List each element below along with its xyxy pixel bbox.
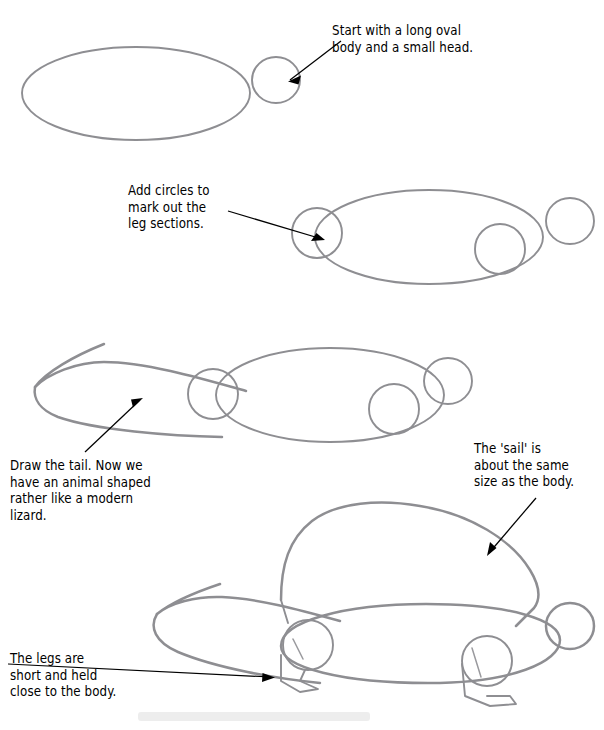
sail-arch [281,503,538,626]
rear-leg-inner-line [472,648,481,677]
tail-lower-curve [35,387,222,437]
tutorial-illustration [0,0,604,730]
caption-sail: The 'sail' is about the same size as the… [474,441,574,491]
rear-leg-circle [475,224,525,274]
head-circle [546,198,594,244]
head-circle [424,358,472,404]
step-2-figure [228,190,594,284]
step-3-figure [35,344,472,452]
arrow-to-leg-circle [228,211,325,241]
front-leg-inner-line [293,639,303,659]
caption-legs: The legs are short and held close to the… [10,651,116,701]
body-oval [315,190,543,284]
caption-step-1: Start with a long oval body and a small … [332,23,473,56]
front-leg-circle [283,620,333,670]
rear-leg-circle [369,384,419,434]
tail-upper-curve [35,344,246,391]
scan-smudge [138,712,370,721]
body-oval [22,47,250,140]
caption-step-3: Draw the tail. Now we have an animal sha… [10,458,151,524]
caption-step-2: Add circles to mark out the leg sections… [128,183,210,233]
tail-upper-curve [157,584,340,621]
sail-front-edge [281,600,288,623]
drawing-sheet: Start with a long oval body and a small … [0,0,604,730]
step-1-figure [22,41,341,140]
front-leg-circle [292,208,342,258]
front-foot [281,655,318,692]
